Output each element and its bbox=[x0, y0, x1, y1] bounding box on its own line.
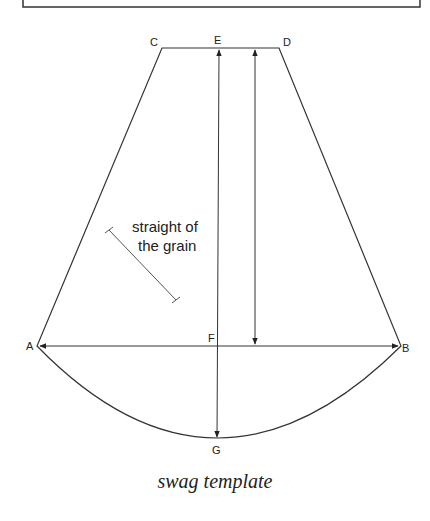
length-arrow-e-g bbox=[217, 50, 219, 437]
swag-template-diagram: C E D A F B G straight of the grain bbox=[0, 0, 430, 521]
label-f: F bbox=[208, 332, 215, 344]
grain-line-cap-start bbox=[105, 227, 113, 233]
grain-note-line1: straight of bbox=[132, 218, 199, 235]
label-a: A bbox=[26, 340, 34, 352]
grain-line-cap-end bbox=[172, 297, 180, 303]
label-c: C bbox=[150, 36, 158, 48]
top-frame-border bbox=[23, 0, 420, 7]
label-g: G bbox=[212, 444, 221, 456]
label-d: D bbox=[283, 36, 291, 48]
figure-caption: swag template bbox=[0, 470, 430, 493]
label-e: E bbox=[214, 34, 221, 46]
grain-note-line2: the grain bbox=[138, 237, 196, 254]
label-b: B bbox=[402, 342, 409, 354]
